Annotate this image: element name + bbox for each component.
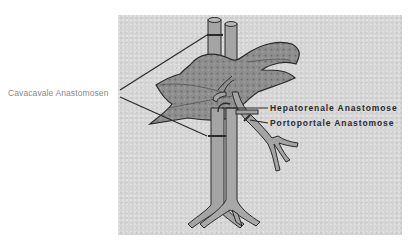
label-cavacaval-anastomoses: Cavacavale Anastomosen xyxy=(8,88,108,98)
diagram-figure: Cavacavale Anastomosen Hepatorenale Anas… xyxy=(0,0,416,245)
label-portoportal-anastomosis: Portoportale Anastomose xyxy=(270,118,394,128)
label-hepatorenal-anastomosis: Hepatorenale Anastomose xyxy=(270,103,398,113)
